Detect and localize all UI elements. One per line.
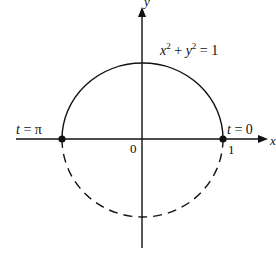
- tick-one-label: 1: [228, 142, 235, 157]
- circle-equation: x2 + y2 = 1: [159, 41, 218, 58]
- y-axis-label: y: [142, 0, 150, 9]
- point-t-0: [219, 135, 226, 142]
- label-t-pi: t = π: [16, 122, 42, 137]
- x-axis-label: x: [269, 133, 276, 148]
- label-t-0: t = 0: [227, 122, 253, 137]
- y-axis: [138, 7, 146, 248]
- point-t-pi: [58, 135, 65, 142]
- eq-plus: +: [171, 43, 186, 58]
- origin-label: 0: [130, 141, 137, 156]
- x-axis-arrow-icon: [258, 135, 268, 143]
- unit-circle-figure: y x 0 1 x2 + y2 = 1 t = π t = 0: [0, 0, 276, 268]
- eq-equals: = 1: [196, 43, 218, 58]
